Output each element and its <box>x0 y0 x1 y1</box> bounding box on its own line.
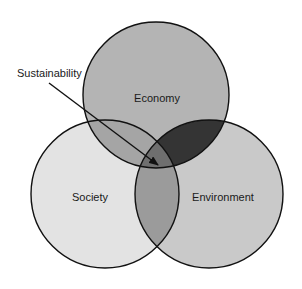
society-label: Society <box>72 191 109 203</box>
economy-label: Economy <box>134 92 180 104</box>
environment-label: Environment <box>192 191 254 203</box>
sustainability-callout-label: Sustainability <box>17 67 82 79</box>
sustainability-venn-diagram: Economy Society Environment Sustainabili… <box>0 0 302 289</box>
